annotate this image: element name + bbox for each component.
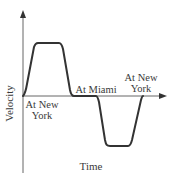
y-axis-label: Velocity	[4, 84, 15, 124]
annotation-end-new-york-line1: At New	[121, 72, 161, 83]
annotation-start-new-york-line2: York	[22, 110, 62, 121]
y-axis-arrow-icon	[20, 10, 26, 18]
annotation-miami: At Miami	[73, 84, 119, 95]
x-axis-label: Time	[76, 161, 106, 172]
annotation-end-new-york-line2: York	[121, 83, 161, 94]
annotation-start-new-york-line1: At New	[22, 99, 62, 110]
